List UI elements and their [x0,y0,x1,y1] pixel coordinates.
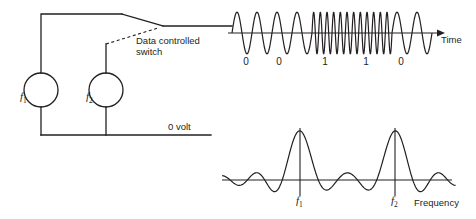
spectrum-peak-f1-label: f1 [296,194,303,209]
spectrum-peak-f2-label: f2 [391,194,398,209]
frequency-axis-label: Frequency [414,198,459,209]
frequency-spectrum-plot [0,0,476,219]
fsk-figure: Data controlled switch 0 volt f1 f2 Time… [0,0,476,219]
spectrum-trace [222,131,456,192]
